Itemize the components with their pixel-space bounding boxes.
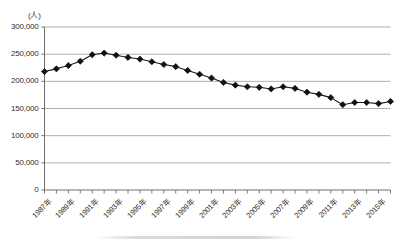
data-point-marker: [220, 79, 226, 85]
y-axis-tick-label: 100,000: [0, 131, 39, 140]
line-chart: (人) 300,000250,000200,000150,000100,0005…: [0, 0, 398, 244]
data-point-marker: [316, 91, 322, 97]
data-point-marker: [173, 64, 179, 70]
data-point-marker: [387, 98, 393, 104]
data-point-marker: [364, 99, 370, 105]
data-point-marker: [41, 68, 47, 74]
y-axis-tick-label: 150,000: [0, 104, 39, 113]
y-axis-tick-label: 50,000: [0, 158, 39, 167]
data-point-marker: [244, 84, 250, 90]
data-point-marker: [304, 89, 310, 95]
data-point-marker: [101, 50, 107, 56]
data-point-marker: [197, 71, 203, 77]
data-point-marker: [328, 95, 334, 101]
data-point-marker: [77, 58, 83, 64]
y-axis-tick-label: 0: [0, 185, 39, 194]
scan-artifact: [96, 236, 296, 239]
data-point-marker: [352, 99, 358, 105]
data-point-marker: [340, 102, 346, 108]
data-point-marker: [53, 66, 59, 72]
data-point-marker: [65, 62, 71, 68]
data-point-marker: [375, 101, 381, 107]
data-point-marker: [268, 86, 274, 92]
data-point-marker: [137, 56, 143, 62]
data-point-marker: [208, 75, 214, 81]
data-point-marker: [149, 59, 155, 65]
data-point-marker: [89, 52, 95, 58]
data-point-marker: [161, 61, 167, 67]
y-axis-tick-label: 200,000: [0, 76, 39, 85]
data-point-marker: [113, 52, 119, 58]
data-point-marker: [185, 67, 191, 73]
data-point-marker: [125, 54, 131, 60]
data-point-marker: [232, 82, 238, 88]
y-axis-tick-label: 300,000: [0, 22, 39, 31]
data-point-marker: [280, 84, 286, 90]
y-axis-tick-label: 250,000: [0, 49, 39, 58]
data-point-marker: [292, 85, 298, 91]
data-line: [45, 53, 391, 105]
data-point-marker: [256, 84, 262, 90]
